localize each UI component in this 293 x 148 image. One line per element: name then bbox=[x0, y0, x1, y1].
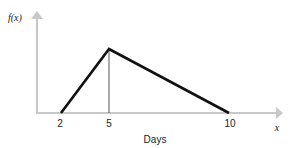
x-axis-label: Days bbox=[144, 134, 167, 145]
x-tick-5: 5 bbox=[106, 118, 112, 129]
x-axis-arrow-icon bbox=[276, 107, 283, 119]
x-tick-10: 10 bbox=[224, 118, 236, 129]
x-axis-symbol: x bbox=[274, 122, 280, 133]
y-axis-label: f(x) bbox=[8, 12, 23, 24]
density-line bbox=[61, 49, 229, 113]
triangular-distribution-chart: f(x) 2 5 10 x Days bbox=[0, 0, 293, 148]
x-tick-2: 2 bbox=[57, 118, 63, 129]
y-axis-arrow-icon bbox=[31, 11, 43, 19]
